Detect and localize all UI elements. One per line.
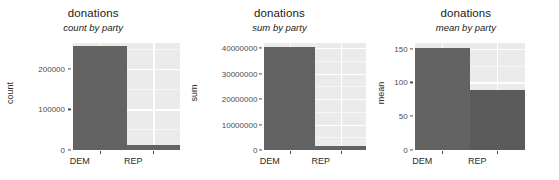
- y-axis-label: count: [5, 70, 15, 116]
- y-tick-label: 0: [17, 146, 65, 155]
- x-tick-mark: [290, 151, 291, 154]
- y-tick-label: 0: [201, 146, 257, 155]
- chart-panel-mean: donations mean by party mean 150 100 50 …: [373, 0, 559, 180]
- y-tick-mark: [259, 73, 262, 74]
- chart-header-count: donations count by party: [0, 6, 186, 34]
- x-tick-label: REP: [301, 156, 341, 166]
- y-tick-label: 10000000: [201, 120, 257, 129]
- y-tick-label: 40000000: [201, 44, 257, 53]
- chart-header-mean: donations mean by party: [373, 6, 559, 34]
- y-tick-mark: [410, 48, 413, 49]
- x-tick-mark: [153, 151, 154, 154]
- y-tick-mark: [259, 124, 262, 125]
- plot-area: [415, 43, 525, 150]
- y-tick-label: 30000000: [201, 69, 257, 78]
- y-tick-mark: [259, 149, 262, 150]
- y-tick-mark: [410, 149, 413, 150]
- x-tick-mark: [341, 151, 342, 154]
- bar-dem: [264, 47, 315, 150]
- chart-subtitle: count by party: [0, 21, 186, 34]
- y-tick-mark: [68, 109, 71, 110]
- y-tick-mark: [259, 98, 262, 99]
- y-tick-mark: [410, 82, 413, 83]
- y-tick-label: 200000: [17, 64, 65, 73]
- plot-area: [264, 43, 366, 150]
- x-tick-label: DEM: [402, 156, 442, 166]
- x-tick-mark: [442, 151, 443, 154]
- chart-subtitle: sum by party: [186, 21, 372, 34]
- x-tick-label: REP: [457, 156, 497, 166]
- vgridline-major: [341, 43, 342, 150]
- y-tick-label: 150: [380, 44, 408, 53]
- y-tick-label: 100: [380, 78, 408, 87]
- x-tick-mark: [100, 151, 101, 154]
- y-axis-label: mean: [376, 70, 386, 116]
- x-tick-label: DEM: [60, 156, 100, 166]
- y-tick-label: 100000: [17, 105, 65, 114]
- chart-title: donations: [0, 6, 186, 20]
- y-tick-mark: [410, 116, 413, 117]
- chart-title: donations: [373, 6, 559, 20]
- y-tick-mark: [68, 68, 71, 69]
- bar-dem: [73, 46, 127, 150]
- bar-rep: [315, 146, 366, 150]
- x-tick-label: REP: [113, 156, 153, 166]
- chart-title: donations: [186, 6, 372, 20]
- y-tick-label: 50: [380, 112, 408, 121]
- y-tick-mark: [68, 149, 71, 150]
- y-tick-label: 0: [380, 146, 408, 155]
- chart-subtitle: mean by party: [373, 21, 559, 34]
- bar-rep: [127, 145, 181, 150]
- chart-grid: donations count by party count 200000 10…: [0, 0, 559, 180]
- y-axis-label: sum: [189, 70, 199, 116]
- x-tick-label: DEM: [250, 156, 290, 166]
- y-tick-label: 20000000: [201, 95, 257, 104]
- chart-panel-count: donations count by party count 200000 10…: [0, 0, 186, 180]
- bar-rep: [470, 90, 525, 150]
- y-tick-mark: [259, 47, 262, 48]
- vgridline-major: [153, 43, 154, 150]
- x-tick-mark: [497, 151, 498, 154]
- bar-dem: [415, 48, 470, 150]
- chart-header-sum: donations sum by party: [186, 6, 372, 34]
- chart-panel-sum: donations sum by party sum 40000000 3000…: [186, 0, 372, 180]
- plot-area: [73, 43, 180, 150]
